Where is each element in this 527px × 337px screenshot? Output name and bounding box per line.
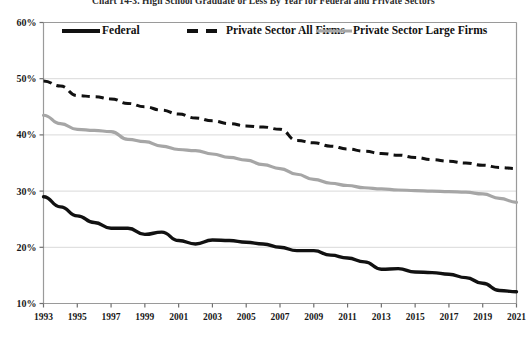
x-tick-label: 1999 xyxy=(135,312,154,322)
y-tick-label: 40% xyxy=(17,129,37,140)
y-tick-label: 60% xyxy=(17,17,37,28)
x-tick-label: 2019 xyxy=(473,312,492,322)
x-tick-label: 1997 xyxy=(102,312,121,322)
y-tick-label: 50% xyxy=(17,73,37,84)
y-tick-label: 20% xyxy=(17,242,37,253)
series-line-1 xyxy=(44,81,517,169)
x-tick-label: 2017 xyxy=(439,312,458,322)
x-tick-label: 1993 xyxy=(34,312,53,322)
x-tick-label: 2001 xyxy=(169,312,188,322)
x-tick-label: 2007 xyxy=(271,312,290,322)
x-tick-label: 2011 xyxy=(338,312,357,322)
y-tick-label: 10% xyxy=(17,298,37,309)
x-tick-label: 2015 xyxy=(406,312,425,322)
series-line-0 xyxy=(44,197,517,292)
x-tick-label: 1995 xyxy=(68,312,87,322)
x-tick-label: 2021 xyxy=(507,312,526,322)
x-tick-label: 2013 xyxy=(372,312,391,322)
x-tick-label: 2003 xyxy=(203,312,222,322)
x-tick-label: 2005 xyxy=(237,312,256,322)
legend-label-2: Private Sector Large Firms xyxy=(353,24,488,37)
x-tick-label: 2009 xyxy=(304,312,323,322)
chart-plot-area: 60%50%40%30%20%10%1993199519971999200120… xyxy=(0,0,527,337)
chart-container: Chart 14-3. High School Graduate or Less… xyxy=(0,0,527,337)
legend-label-0: Federal xyxy=(102,24,140,36)
y-tick-label: 30% xyxy=(17,186,37,197)
